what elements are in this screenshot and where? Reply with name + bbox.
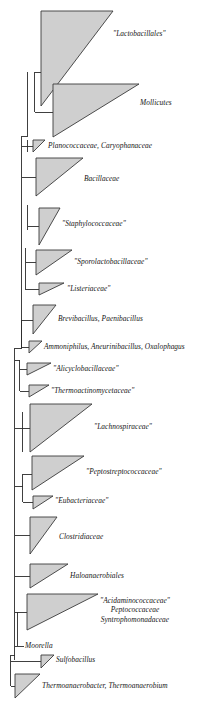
clade-label-eubacteriaceae: "Eubacteriaceae" [55,496,108,505]
clade-label-ammoniphilus: Ammoniphilus, Aneurinibacillus, Oxalopha… [44,342,185,351]
wedge-peptostreptococcaceae [32,456,84,490]
clade-label-thermoactinomycetaceae: "Thermoactinomycetaceae" [51,386,134,395]
clade-label-lachnospiraceae: "Lachnospiraceae" [94,422,152,431]
wedge-thermoactinomycetaceae [29,385,49,397]
clade-label-haloanaerobiales: Haloanaerobiales [70,571,124,580]
wedge-bacillaceae [36,158,83,196]
clade-label-listeriaceae: "Listeriaceae" [67,284,110,293]
clade-label-staphylococcaceae: "Staphylococcaceae" [62,219,126,228]
clade-label-sulfobacillus: Sulfobacillus [56,655,95,664]
wedge-sporolactobacillaceae [36,250,72,275]
clade-label-planococcaceae: Planococcaceae, Caryophanaceae [48,141,152,150]
clade-label-mollicutes: Mollicutes [140,98,172,107]
wedge-planococcaceae [33,140,45,152]
wedge-eubacteriaceae [33,496,53,509]
wedge-alicyclobacillaceae [27,363,51,375]
phylogenetic-tree-figure: "Lactobacillales" Mollicutes Planococcac… [0,0,219,702]
clade-label-bacillaceae: Bacillaceae [84,174,119,183]
wedge-haloanaerobiales [30,564,68,588]
wedge-clostridiaceae [30,517,57,554]
clade-label-peptostreptococcaceae: "Peptostreptococcaceae" [86,467,162,476]
clade-label-brevibacillus: Brevibacillus, Paenibacillus [58,314,143,323]
clade-label-thermoanaerobacter: Thermoanaerobacter, Thermoanaerobium [42,681,168,690]
clade-label-lactobacillales: "Lactobacillales" [113,29,166,38]
wedge-sulfobacillus [41,655,54,668]
clade-label-alicyclobacillaceae: "Alicyclobacillaceae" [53,364,119,373]
clade-wedges [15,11,139,698]
wedge-brevibacillus [33,305,56,334]
wedge-listeriaceae [39,283,64,295]
clade-label-moorella: Moorella [25,641,53,650]
wedge-thermoanaerobacter [15,674,40,698]
clade-label-sporolactobacillaceae: "Sporolactobacillaceae" [74,257,148,266]
clade-label-clostridiaceae: Clostridiaceae [59,532,103,541]
wedge-staphylococcaceae [39,208,60,245]
wedge-lachnospiraceae [30,404,92,452]
clade-label-acidaminococcaceae: "Acidaminococcaceae"PeptococcaceaeSyntro… [60,596,210,624]
wedge-mollicutes [53,84,139,137]
wedge-ammoniphilus [29,341,42,353]
